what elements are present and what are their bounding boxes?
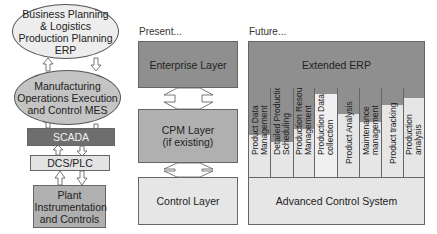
column-label: Production analysis [405, 95, 423, 155]
advanced-control-system-box: Advanced Control System [248, 177, 425, 225]
cpm-layer-note: (if existing) [163, 136, 214, 148]
erp-label: Business Planning & Logistics Production… [18, 8, 114, 56]
future-heading: Future... [249, 26, 286, 37]
enterprise-layer-label: Enterprise Layer [149, 59, 226, 71]
enterprise-layer-box: Enterprise Layer [138, 41, 238, 88]
column-label: Production Data collection [317, 88, 335, 155]
dcs-plc-box: DCS/PLC [30, 155, 110, 171]
extended-erp-box: Extended ERP [248, 41, 425, 89]
plant-label: Plant Instrumentation and Controls [35, 189, 105, 225]
scada-label: SCADA [53, 131, 89, 143]
cpm-layer-box: CPM Layer (if existing) [138, 109, 238, 163]
column-label: Maintenance management [362, 95, 380, 155]
advanced-control-system-label: Advanced Control System [276, 195, 397, 207]
column-label: Product tracking [388, 103, 397, 164]
column-product-tracking: Product tracking [381, 88, 403, 177]
column-label: Product Data Management [251, 88, 269, 155]
column-production-data-collection: Production Data collection [314, 88, 337, 177]
present-heading: Present... [139, 26, 182, 37]
dcs-plc-label: DCS/PLC [47, 157, 93, 169]
plant-box: Plant Instrumentation and Controls [33, 185, 106, 228]
control-layer-label: Control Layer [156, 195, 219, 207]
column-detailed-production-scheduling: Detailed Production Scheduling [270, 88, 293, 177]
column-label: Detailed Production Scheduling [273, 88, 291, 155]
column-product-data-management: Product Data Management [248, 88, 270, 177]
control-layer-box: Control Layer [138, 177, 238, 225]
extended-erp-label: Extended ERP [302, 59, 371, 71]
mes-label: Manufacturing Operations Execution and C… [16, 80, 120, 116]
column-label: Production Resource Management [295, 88, 313, 155]
column-production-resource-management: Production Resource Management [293, 88, 314, 177]
erp-ellipse: Business Planning & Logistics Production… [12, 4, 119, 59]
mes-ellipse: Manufacturing Operations Execution and C… [14, 70, 121, 125]
cpm-layer-label: CPM Layer [162, 124, 215, 136]
column-maintenance-management: Maintenance management [359, 88, 381, 177]
column-label: Product Analysis [344, 101, 353, 164]
column-product-analysis: Product Analysis [337, 88, 359, 177]
column-production-analysis: Production analysis [403, 88, 425, 177]
scada-box: SCADA [27, 128, 115, 146]
